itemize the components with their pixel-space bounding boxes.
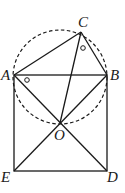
dashed-circle [13,30,107,124]
label-c: C [78,14,89,30]
label-e: E [0,169,10,185]
geometry-diagram: A B C O E D [0,0,125,193]
angle-mark-a [25,78,30,83]
label-o: O [54,127,65,143]
label-b: B [110,67,119,83]
segment-cb [81,32,107,75]
angle-mark-c [81,46,86,51]
segment-co [60,32,81,123]
segment-ac [14,32,81,75]
label-a: A [0,67,11,83]
label-d: D [106,169,118,185]
